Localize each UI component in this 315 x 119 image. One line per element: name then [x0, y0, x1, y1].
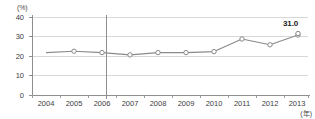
data-point-2010: [240, 37, 244, 41]
data-point-2009: [212, 49, 216, 53]
x-tick-label-2009: 2009: [172, 99, 200, 108]
x-tick-label-2013: 2013: [283, 99, 311, 108]
y-tick-label-0: 0: [8, 91, 24, 100]
y-axis-unit-label: (%): [17, 4, 27, 11]
y-tick-label-10: 10: [8, 71, 24, 80]
data-point-2007: [156, 50, 160, 54]
data-label-2013: 31.0: [283, 19, 298, 28]
x-tick-label-2004: 2004: [32, 99, 60, 108]
data-point-2011: [268, 43, 272, 47]
data-point-2008: [184, 50, 188, 54]
y-axis-ticks: [29, 18, 32, 96]
data-point-2013: [296, 31, 300, 35]
x-axis-unit-label: (年): [300, 108, 312, 118]
y-tick-label-30: 30: [8, 32, 24, 41]
x-tick-label-2005: 2005: [60, 99, 88, 108]
x-tick-label-2007: 2007: [116, 99, 144, 108]
data-point-2006: [128, 53, 132, 57]
x-tick-label-2010: 2010: [200, 99, 228, 108]
x-tick-label-2011: 2011: [228, 99, 256, 108]
x-tick-label-2006: 2006: [88, 99, 116, 108]
y-tick-label-20: 20: [8, 52, 24, 61]
chart-container: (%) 40 30 20 10 0 2004 2005 2006 2007 20…: [0, 0, 315, 119]
data-point-2005: [100, 50, 104, 54]
x-tick-label-2008: 2008: [144, 99, 172, 108]
data-point-2004: [72, 49, 76, 53]
y-tick-label-40: 40: [8, 13, 24, 22]
x-tick-label-2012: 2012: [256, 99, 284, 108]
